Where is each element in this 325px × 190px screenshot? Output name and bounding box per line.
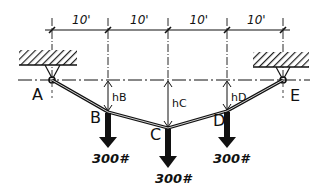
load-arrow-B <box>99 113 117 148</box>
span-label: 10' <box>247 13 266 27</box>
load-label-D: 300# <box>213 151 251 166</box>
label-A: A <box>32 85 43 104</box>
label-hC: hC <box>172 97 187 110</box>
span-labels: 10'10'10'10' <box>72 13 266 27</box>
label-E: E <box>290 86 300 105</box>
span-label: 10' <box>190 13 209 27</box>
load-label-B: 300# <box>92 151 130 166</box>
sag-hC <box>164 81 172 127</box>
right-support <box>253 52 309 83</box>
label-hD: hD <box>231 91 246 104</box>
label-B: B <box>90 108 101 127</box>
left-support <box>19 50 77 83</box>
cable-diagram: 10'10'10'10' hB hC hD <box>0 0 325 190</box>
load-label-C: 300# <box>155 171 193 186</box>
span-label: 10' <box>130 13 149 27</box>
sag-hD <box>223 81 231 110</box>
label-C: C <box>150 125 161 144</box>
label-hB: hB <box>112 91 127 104</box>
dimension-ticks <box>49 18 286 80</box>
label-D: D <box>213 111 225 130</box>
span-label: 10' <box>72 13 91 27</box>
sag-hB <box>104 81 112 111</box>
load-arrow-C <box>159 129 177 168</box>
